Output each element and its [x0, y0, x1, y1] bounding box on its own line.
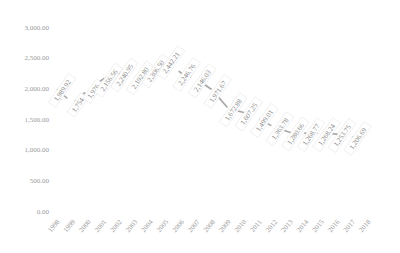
x-tick-label: 2009 — [217, 218, 232, 234]
line-chart: 0.00500.001,000.001,500.002,000.002,500.… — [0, 0, 400, 253]
y-tick-label: 0.00 — [37, 208, 50, 216]
x-tick-label: 2018 — [357, 218, 372, 234]
x-tick-label: 2008 — [202, 218, 217, 234]
x-tick-label: 2012 — [264, 218, 279, 234]
x-tick-label: 2014 — [295, 218, 310, 234]
data-labels: 1,989.921,7541,9762,156.562,240.952,192.… — [48, 46, 371, 156]
x-tick-label: 2015 — [311, 218, 326, 234]
x-tick-label: 2016 — [326, 218, 341, 234]
x-tick-label: 2007 — [186, 218, 201, 234]
x-tick-label: 1999 — [62, 218, 77, 234]
x-tick-label: 2013 — [280, 218, 295, 234]
y-tick-label: 500.00 — [30, 177, 50, 185]
x-tick-label: 2010 — [233, 218, 248, 234]
data-label: 1,989.92 — [48, 73, 76, 107]
y-axis: 0.00500.001,000.001,500.002,000.002,500.… — [25, 24, 50, 216]
x-tick-label: 1998 — [46, 218, 61, 234]
x-tick-label: 2006 — [171, 218, 186, 234]
y-tick-label: 2,500.00 — [25, 54, 50, 62]
x-tick-label: 2002 — [109, 218, 124, 234]
y-tick-label: 2,000.00 — [25, 85, 50, 93]
x-tick-label: 2001 — [93, 218, 108, 234]
y-tick-label: 3,000.00 — [25, 24, 50, 32]
x-tick-label: 2005 — [155, 218, 170, 234]
y-tick-label: 1,000.00 — [25, 146, 50, 154]
x-tick-label: 2004 — [140, 218, 155, 234]
x-tick-label: 2000 — [78, 218, 93, 234]
x-tick-label: 2003 — [124, 218, 139, 234]
x-tick-label: 2017 — [342, 218, 357, 234]
x-axis: 1998199920002001200220032004200520062007… — [46, 218, 372, 234]
y-tick-label: 1,500.00 — [25, 116, 50, 124]
x-tick-label: 2011 — [249, 218, 264, 234]
